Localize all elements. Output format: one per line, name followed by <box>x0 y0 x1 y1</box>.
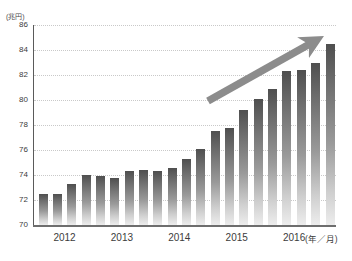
bar <box>168 168 177 226</box>
y-axis-tick-label: 78 <box>6 121 28 129</box>
x-axis-tick-label: 2014 <box>168 232 190 243</box>
y-axis-tick-label: 72 <box>6 196 28 204</box>
bar <box>282 71 291 225</box>
bar <box>326 44 335 225</box>
bar <box>239 110 248 225</box>
bar <box>110 178 119 226</box>
bar <box>297 70 306 225</box>
plot-area <box>33 25 336 225</box>
bar <box>39 194 48 225</box>
x-axis-line <box>33 225 336 227</box>
x-axis-tick-label: 2016 <box>283 232 305 243</box>
y-axis-tick-label: 76 <box>6 146 28 154</box>
y-axis-tick-label: 74 <box>6 171 28 179</box>
bar <box>254 99 263 225</box>
y-axis-tick-label: 80 <box>6 96 28 104</box>
x-axis-unit-label: (年／月) <box>305 232 338 244</box>
bar <box>139 170 148 225</box>
bar <box>153 171 162 225</box>
y-axis-tick-label: 84 <box>6 46 28 54</box>
bar <box>211 131 220 225</box>
x-axis-tick-labels: 20122013201420152016(年／月) <box>0 232 352 248</box>
y-axis-tick-label: 86 <box>6 21 28 29</box>
x-axis-tick-label: 2012 <box>53 232 75 243</box>
bar <box>125 171 134 225</box>
x-axis-tick-label: 2013 <box>111 232 133 243</box>
bar-series <box>33 25 336 225</box>
bar <box>268 89 277 225</box>
bar <box>196 149 205 225</box>
bar <box>53 194 62 225</box>
bar <box>96 176 105 225</box>
x-axis-tick-label: 2015 <box>226 232 248 243</box>
bar <box>311 63 320 226</box>
bar <box>82 175 91 225</box>
y-axis-tick-label: 70 <box>6 221 28 229</box>
bar <box>182 159 191 225</box>
chart-screenshot: (兆円) 707274767880828486 2012201320142015… <box>0 0 352 261</box>
bar <box>67 184 76 225</box>
bar <box>225 128 234 226</box>
y-axis-tick-labels: 707274767880828486 <box>0 25 28 225</box>
y-axis-tick-label: 82 <box>6 71 28 79</box>
